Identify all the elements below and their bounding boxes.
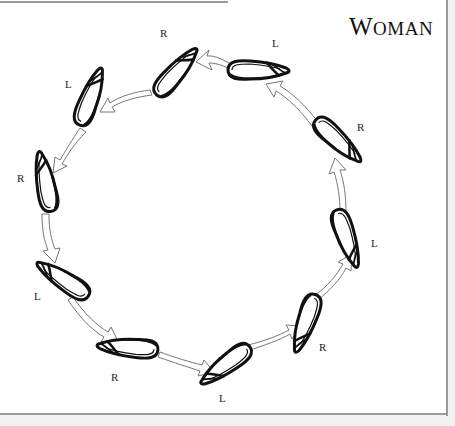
foot-label-9: R (17, 172, 24, 184)
foot-label-6: L (219, 392, 226, 404)
foot-label-4: L (371, 237, 378, 249)
footprint-10-left (71, 65, 109, 129)
foot-label-1: R (160, 27, 167, 39)
footprint-8-left (32, 256, 94, 304)
foot-label-2: L (272, 37, 279, 49)
footprint-1-right (150, 42, 203, 101)
foot-label-3: R (357, 121, 364, 133)
foot-label-10: L (65, 78, 72, 90)
footprint-7-right (97, 337, 159, 359)
step-circle-diagram (0, 0, 455, 426)
foot-label-7: R (111, 371, 118, 383)
foot-label-5: R (319, 341, 326, 353)
foot-label-8: L (34, 290, 41, 302)
footprint-2-left (228, 61, 289, 80)
